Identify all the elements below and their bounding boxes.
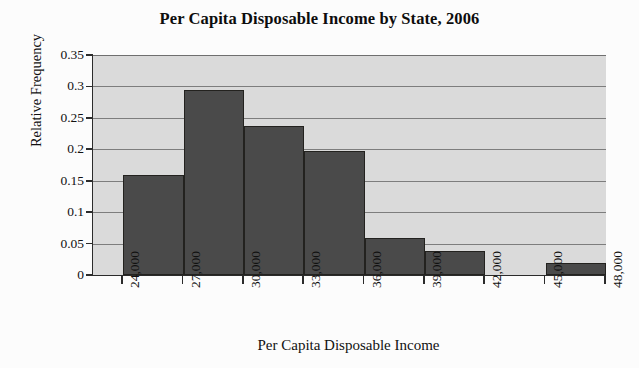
x-tick-mark (544, 276, 546, 284)
x-tick-mark (302, 276, 304, 284)
x-tick-mark (242, 276, 244, 284)
x-tick-mark (182, 276, 184, 284)
gridline (93, 55, 606, 56)
gridline (93, 149, 606, 150)
x-tick-mark (423, 276, 425, 284)
x-tick-mark (483, 276, 485, 284)
y-tick-label: 0 (38, 268, 84, 282)
gridline (93, 118, 606, 119)
x-tick-mark (604, 276, 606, 284)
x-axis-title: Per Capita Disposable Income (92, 337, 605, 354)
y-tick-mark (86, 274, 93, 276)
plot-inner (93, 55, 606, 275)
bar (184, 90, 244, 275)
y-tick-label: 0.1 (38, 205, 84, 219)
plot-area (92, 55, 606, 276)
y-tick-mark (86, 117, 93, 119)
y-tick-mark (86, 86, 93, 88)
y-axis-title: Relative Frequency (28, 0, 45, 191)
y-tick-label: 0.15 (38, 174, 84, 188)
y-tick-label: 0.05 (38, 237, 84, 251)
y-tick-label: 0.35 (38, 48, 84, 62)
y-tick-mark (86, 148, 93, 150)
y-tick-mark (86, 54, 93, 56)
gridline (93, 86, 606, 87)
y-tick-mark (86, 211, 93, 213)
x-tick-mark (121, 276, 123, 284)
y-tick-label: 0.3 (38, 79, 84, 93)
y-tick-label: 0.2 (38, 142, 84, 156)
chart-title: Per Capita Disposable Income by State, 2… (0, 9, 639, 29)
y-tick-mark (86, 243, 93, 245)
y-tick-label: 0.25 (38, 111, 84, 125)
x-tick-mark (363, 276, 365, 284)
histogram-figure: Per Capita Disposable Income by State, 2… (0, 0, 639, 368)
y-tick-mark (86, 180, 93, 182)
